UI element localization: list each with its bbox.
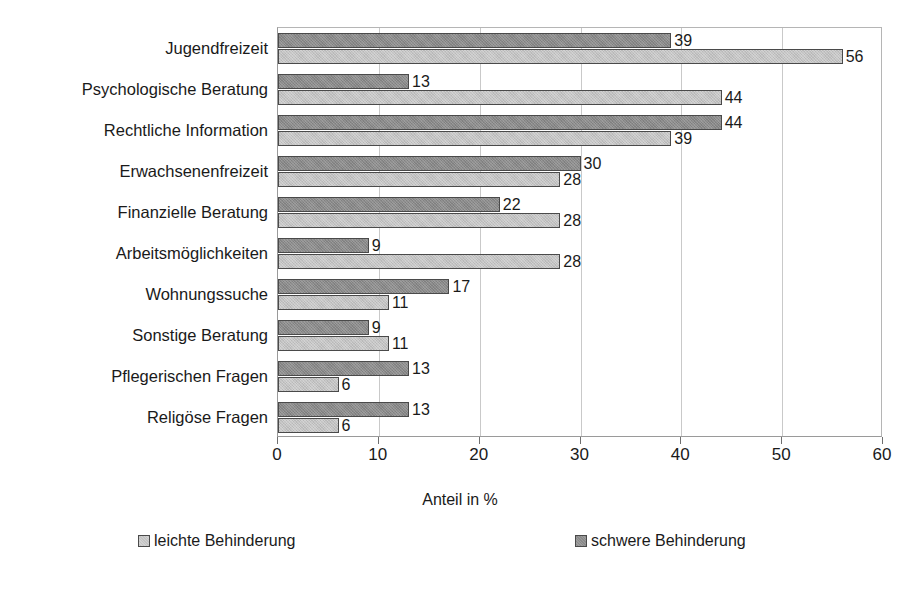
chart-legend: leichte Behinderungschwere Behinderung: [0, 533, 920, 559]
bar-chart: JugendfreizeitPsychologische BeratungRec…: [0, 0, 920, 590]
plot-area: 395613444439302822289281711911136136: [277, 27, 882, 437]
bar-value-label: 6: [339, 377, 351, 393]
bar-line: 6: [278, 418, 881, 433]
x-tick-40: [680, 437, 681, 444]
x-tick-0: [277, 437, 278, 444]
legend-label: leichte Behinderung: [154, 533, 295, 549]
legend-swatch-icon: [575, 535, 587, 547]
category-label: Psychologische Beratung: [0, 81, 268, 98]
bar-mild: [278, 90, 722, 105]
bar-value-label: 9: [369, 238, 381, 254]
bar-line: 39: [278, 131, 881, 146]
bar-value-label: 13: [409, 402, 430, 418]
category-label: Sonstige Beratung: [0, 327, 268, 344]
x-tick-20: [479, 437, 480, 444]
bar-value-label: 28: [560, 172, 581, 188]
bar-group: 3956: [278, 28, 881, 69]
x-tick-30: [580, 437, 581, 444]
legend-item-mild[interactable]: leichte Behinderung: [138, 533, 295, 549]
category-label: Pflegerischen Fragen: [0, 368, 268, 385]
bar-value-label: 9: [369, 320, 381, 336]
bar-severe: [278, 320, 369, 335]
bar-line: 6: [278, 377, 881, 392]
bar-value-label: 56: [843, 49, 864, 65]
bar-severe: [278, 115, 722, 130]
bar-value-label: 11: [389, 295, 409, 311]
category-label: Wohnungssuche: [0, 286, 268, 303]
bar-group: 4439: [278, 110, 881, 151]
legend-label: schwere Behinderung: [591, 533, 746, 549]
bar-mild: [278, 377, 339, 392]
x-tick-10: [378, 437, 379, 444]
bar-mild: [278, 49, 843, 64]
x-tick-label-40: 40: [671, 446, 690, 463]
bar-severe: [278, 156, 581, 171]
bar-mild: [278, 295, 389, 310]
category-label: Rechtliche Information: [0, 122, 268, 139]
legend-item-severe[interactable]: schwere Behinderung: [575, 533, 746, 549]
bar-value-label: 22: [500, 197, 521, 213]
category-axis-labels: JugendfreizeitPsychologische BeratungRec…: [0, 27, 268, 437]
bar-group: 1344: [278, 69, 881, 110]
bar-group: 136: [278, 356, 881, 397]
bar-mild: [278, 336, 389, 351]
bar-mild: [278, 131, 671, 146]
bar-severe: [278, 33, 671, 48]
category-label: Erwachsenenfreizeit: [0, 163, 268, 180]
x-axis-title: Anteil in %: [0, 492, 920, 508]
x-tick-label-50: 50: [772, 446, 791, 463]
bar-line: 11: [278, 295, 881, 310]
bar-value-label: 39: [671, 33, 692, 49]
x-axis-ticks: [277, 437, 882, 445]
bar-line: 44: [278, 90, 881, 105]
bar-value-label: 28: [560, 254, 581, 270]
bar-line: 28: [278, 254, 881, 269]
bar-value-label: 39: [671, 131, 692, 147]
x-tick-60: [882, 437, 883, 444]
bar-line: 44: [278, 115, 881, 130]
bar-line: 28: [278, 213, 881, 228]
bar-line: 13: [278, 74, 881, 89]
bar-value-label: 44: [722, 115, 743, 131]
category-label: Arbeitsmöglichkeiten: [0, 245, 268, 262]
bar-group: 136: [278, 397, 881, 438]
bar-severe: [278, 197, 500, 212]
bar-group: 928: [278, 233, 881, 274]
x-tick-label-0: 0: [272, 446, 281, 463]
bar-line: 17: [278, 279, 881, 294]
bar-value-label: 44: [722, 90, 743, 106]
bar-value-label: 13: [409, 74, 430, 90]
bar-mild: [278, 254, 560, 269]
bar-line: 28: [278, 172, 881, 187]
bar-line: 9: [278, 320, 881, 335]
bar-value-label: 6: [339, 418, 351, 434]
bar-group: 1711: [278, 274, 881, 315]
bar-mild: [278, 418, 339, 433]
x-tick-50: [781, 437, 782, 444]
x-tick-label-60: 60: [873, 446, 892, 463]
x-tick-label-10: 10: [368, 446, 387, 463]
bar-value-label: 28: [560, 213, 581, 229]
bar-mild: [278, 213, 560, 228]
bar-value-label: 13: [409, 361, 430, 377]
bar-severe: [278, 74, 409, 89]
bar-severe: [278, 279, 449, 294]
category-label: Jugendfreizeit: [0, 40, 268, 57]
bar-group: 3028: [278, 151, 881, 192]
bar-severe: [278, 402, 409, 417]
bar-line: 9: [278, 238, 881, 253]
x-tick-label-30: 30: [570, 446, 589, 463]
bar-line: 39: [278, 33, 881, 48]
bar-line: 11: [278, 336, 881, 351]
bar-line: 13: [278, 402, 881, 417]
bar-value-label: 30: [581, 156, 602, 172]
bar-line: 30: [278, 156, 881, 171]
bar-line: 13: [278, 361, 881, 376]
legend-swatch-icon: [138, 535, 150, 547]
bar-severe: [278, 361, 409, 376]
bar-groups: 395613444439302822289281711911136136: [278, 28, 881, 436]
bar-group: 2228: [278, 192, 881, 233]
category-label: Finanzielle Beratung: [0, 204, 268, 221]
bar-line: 56: [278, 49, 881, 64]
bar-line: 22: [278, 197, 881, 212]
